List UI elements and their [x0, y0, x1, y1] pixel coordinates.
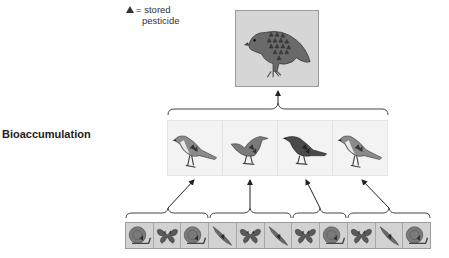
- snail-icon: [320, 223, 347, 248]
- slug-icon: [376, 223, 403, 248]
- arrow-group4-to-bird4: [362, 180, 389, 208]
- prey-bracket-1: [126, 208, 208, 218]
- prey-cell-2: [154, 223, 182, 248]
- prey-cell-6: [265, 223, 293, 248]
- dark-bird-icon: [278, 121, 332, 175]
- prey-cell-9: [348, 223, 376, 248]
- bird-cell-2: [223, 121, 278, 175]
- prey-cell-10: [376, 223, 404, 248]
- mockingbird-icon: [168, 121, 222, 175]
- prey-cell-4: [209, 223, 237, 248]
- arrow-group1-to-bird1: [168, 180, 194, 208]
- prey-cell-3: [181, 223, 209, 248]
- butterfly-icon: [292, 223, 319, 248]
- prey-cell-1: [126, 223, 154, 248]
- arrow-group3-to-bird3: [306, 180, 320, 208]
- prey-cell-5: [237, 223, 265, 248]
- secondary-consumer-row: [167, 120, 388, 176]
- prey-bracket-3: [293, 208, 346, 218]
- prey-cell-8: [320, 223, 348, 248]
- songbird-icon: [223, 121, 277, 175]
- snail-icon: [181, 223, 208, 248]
- primary-consumer-row: [125, 222, 431, 249]
- prey-bracket-2: [210, 208, 291, 218]
- slug-icon: [265, 223, 292, 248]
- slug-icon: [209, 223, 236, 248]
- snail-icon: [126, 223, 153, 248]
- prey-cell-7: [292, 223, 320, 248]
- butterfly-icon: [237, 223, 264, 248]
- top-predator-box: [235, 10, 319, 87]
- butterfly-icon: [154, 223, 181, 248]
- prey-bracket-4: [348, 208, 430, 218]
- bird-row-bracket: [168, 103, 388, 115]
- bird-cell-1: [168, 121, 223, 175]
- prey-cell-11: [403, 223, 430, 248]
- butterfly-icon: [348, 223, 375, 248]
- bird-cell-4: [333, 121, 387, 175]
- snail-icon: [403, 223, 430, 248]
- hawk-icon: [236, 11, 318, 86]
- mockingbird-icon: [333, 121, 387, 175]
- bird-cell-3: [278, 121, 333, 175]
